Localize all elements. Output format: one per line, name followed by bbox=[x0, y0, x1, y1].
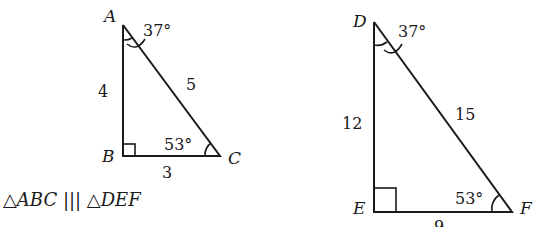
right-angle-marker-b bbox=[123, 144, 135, 156]
similar-triangles-diagram: A B C 4 5 3 37° 53° △ABC ||| △DEF D E F … bbox=[0, 0, 548, 227]
angle-arc-f bbox=[492, 195, 499, 212]
angle-label-d: 37° bbox=[398, 22, 426, 41]
angle-label-f: 53° bbox=[455, 189, 483, 208]
vertex-label-e: E bbox=[352, 198, 366, 218]
vertex-label-a: A bbox=[102, 6, 116, 26]
vertex-label-d: D bbox=[352, 11, 367, 31]
side-label-bc: 3 bbox=[162, 163, 172, 182]
right-angle-marker-e bbox=[374, 188, 396, 212]
vertex-label-c: C bbox=[228, 148, 241, 168]
side-label-df: 15 bbox=[455, 105, 475, 124]
side-label-ac: 5 bbox=[186, 75, 196, 94]
side-label-ef: 9 bbox=[434, 217, 444, 227]
triangle-def: D E F 12 15 9 37° 53° bbox=[342, 11, 533, 227]
angle-label-a: 37° bbox=[143, 21, 171, 40]
angle-arc-d bbox=[374, 42, 387, 45]
vertex-label-b: B bbox=[101, 146, 115, 166]
side-label-ab: 4 bbox=[98, 82, 108, 101]
similarity-statement: △ABC ||| △DEF bbox=[3, 189, 142, 211]
vertex-label-f: F bbox=[519, 198, 533, 218]
angle-label-c: 53° bbox=[164, 135, 192, 154]
triangle-def-edges bbox=[374, 22, 512, 212]
angle-arc-c bbox=[205, 143, 211, 156]
side-label-de: 12 bbox=[342, 114, 362, 133]
angle-arc-a bbox=[123, 38, 132, 40]
triangle-abc: A B C 4 5 3 37° 53° bbox=[98, 6, 241, 182]
